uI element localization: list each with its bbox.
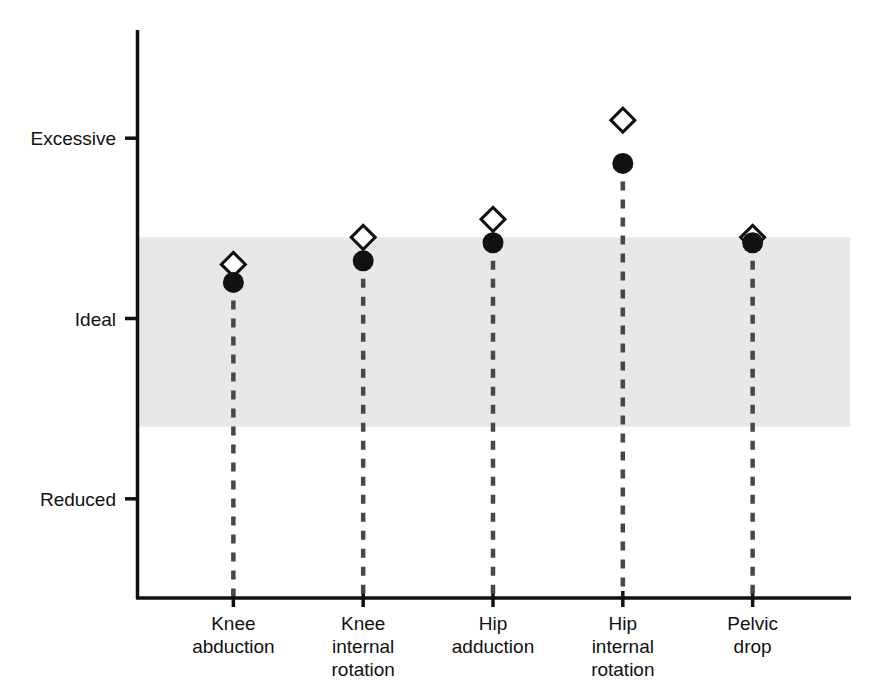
x-axis-category-label: Hipadduction	[452, 613, 534, 657]
filled-circle-marker	[742, 232, 763, 253]
category-label-line: Hip	[609, 613, 638, 634]
x-axis-category-label: Kneeabduction	[192, 613, 274, 657]
category-label-line: abduction	[192, 636, 274, 657]
category-label-line: rotation	[591, 659, 654, 680]
category-label-line: drop	[734, 636, 772, 657]
x-axis-category-label: Hipinternalrotation	[591, 613, 654, 680]
x-axis-category-label: Kneeinternalrotation	[331, 613, 394, 680]
x-axis-category-label: Pelvicdrop	[727, 613, 778, 657]
open-diamond-marker	[481, 207, 505, 231]
open-diamond-marker	[611, 108, 635, 132]
category-label-line: Hip	[479, 613, 508, 634]
filled-circle-marker	[353, 250, 374, 271]
filled-circle-marker	[483, 232, 504, 253]
scatter-plot: ExcessiveIdealReduced KneeabductionKneei…	[0, 0, 880, 700]
category-label-line: internal	[592, 636, 654, 657]
y-axis-tick-label: Ideal	[75, 309, 116, 330]
x-axis-category-labels: KneeabductionKneeinternalrotationHipaddu…	[192, 613, 778, 680]
category-label-line: rotation	[331, 659, 394, 680]
chart-figure: ExcessiveIdealReduced KneeabductionKneei…	[0, 0, 880, 700]
category-label-line: adduction	[452, 636, 534, 657]
filled-circle-marker	[612, 153, 633, 174]
category-label-line: Knee	[341, 613, 385, 634]
filled-circle-marker	[223, 272, 244, 293]
category-label-line: Pelvic	[727, 613, 778, 634]
category-label-line: internal	[332, 636, 394, 657]
y-axis-tick-label: Excessive	[30, 128, 116, 149]
category-label-line: Knee	[211, 613, 255, 634]
y-axis-tick-label: Reduced	[40, 489, 116, 510]
y-axis-tick-labels: ExcessiveIdealReduced	[30, 128, 116, 510]
